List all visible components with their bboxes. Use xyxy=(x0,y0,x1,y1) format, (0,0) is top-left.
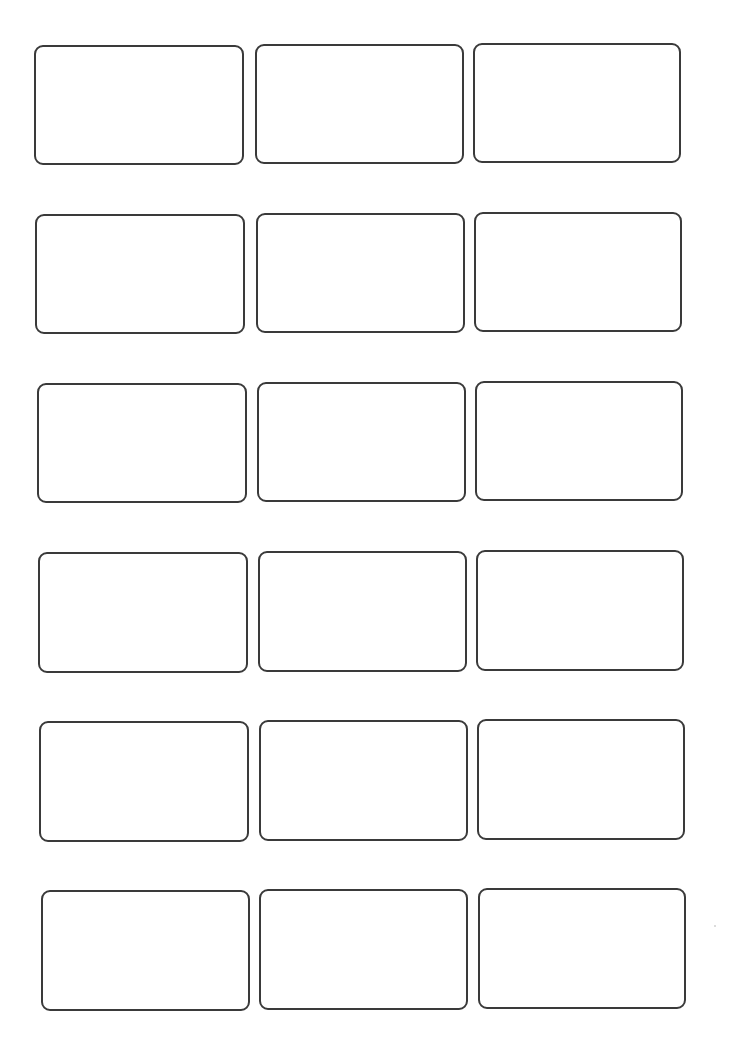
label-cell-r1-c3 xyxy=(473,43,681,163)
label-cell-r3-c1 xyxy=(37,383,247,503)
scan-speck xyxy=(714,925,716,927)
label-cell-r6-c2 xyxy=(259,889,468,1010)
label-cell-r3-c2 xyxy=(257,382,466,502)
label-cell-r1-c2 xyxy=(255,44,464,164)
label-cell-r4-c2 xyxy=(258,551,467,672)
label-cell-r4-c1 xyxy=(38,552,248,673)
label-cell-r2-c3 xyxy=(474,212,682,332)
label-cell-r1-c1 xyxy=(34,45,244,165)
label-cell-r3-c3 xyxy=(475,381,683,501)
label-cell-r5-c1 xyxy=(39,721,249,842)
label-cell-r6-c1 xyxy=(41,890,250,1011)
label-cell-r6-c3 xyxy=(478,888,686,1009)
label-cell-r5-c3 xyxy=(477,719,685,840)
label-cell-r2-c1 xyxy=(35,214,245,334)
label-cell-r2-c2 xyxy=(256,213,465,333)
label-cell-r5-c2 xyxy=(259,720,468,841)
label-cell-r4-c3 xyxy=(476,550,684,671)
